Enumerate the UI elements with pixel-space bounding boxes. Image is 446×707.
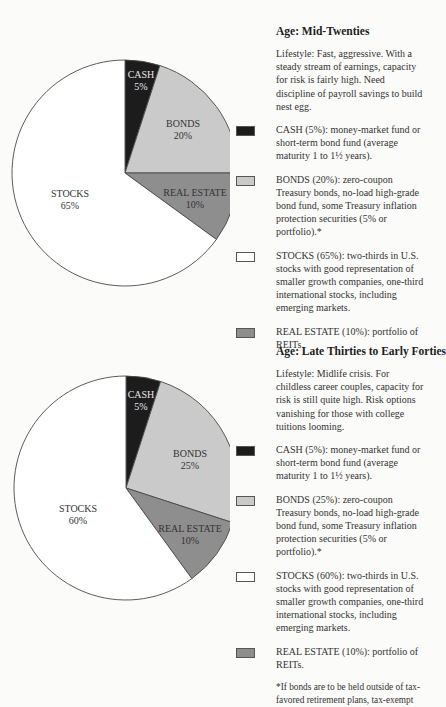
slice-label-real-estate: REAL ESTATE <box>158 523 222 534</box>
swatch-cash <box>236 126 255 136</box>
legend-text: CASH (5%): money-market fund or short-te… <box>276 443 426 483</box>
pie-svg: CASH5%BONDS20%REAL ESTATE10%STOCKS65% <box>0 0 230 310</box>
lifestyle-text: Lifestyle: Fast, aggressive. With a stea… <box>276 47 426 113</box>
pie-svg: CASH5%BONDS25%REAL ESTATE10%STOCKS60% <box>0 320 230 629</box>
swatch-real-estate <box>236 648 255 658</box>
legend-text: CASH (5%): money-market fund or short-te… <box>276 123 426 163</box>
section-late-thirties: Age: Late Thirties to Early Forties Life… <box>276 345 426 707</box>
pie-chart-late-thirties: CASH5%BONDS25%REAL ESTATE10%STOCKS60% <box>0 320 230 629</box>
legend-item-bonds: BONDS (25%): zero-coupon Treasury bonds,… <box>276 493 426 559</box>
swatch-real-estate <box>236 328 255 338</box>
legend-text: BONDS (20%): zero-coupon Treasury bonds,… <box>276 173 426 239</box>
slice-label-bonds: BONDS <box>166 118 200 129</box>
swatch-stocks <box>236 572 255 582</box>
slice-label-real-estate: 10% <box>186 199 204 210</box>
footnote: *If bonds are to be held outside of tax-… <box>276 681 426 707</box>
swatch-stocks <box>236 252 255 262</box>
pie-chart-mid-twenties: CASH5%BONDS20%REAL ESTATE10%STOCKS65% <box>0 0 230 310</box>
section-mid-twenties: Age: Mid-Twenties Lifestyle: Fast, aggre… <box>276 25 426 361</box>
legend-text: STOCKS (65%): two-thirds in U.S. stocks … <box>276 249 426 315</box>
section-title: Age: Mid-Twenties <box>276 25 426 37</box>
swatch-cash <box>236 446 255 456</box>
legend-text: BONDS (25%): zero-coupon Treasury bonds,… <box>276 493 426 559</box>
legend-text: REAL ESTATE (10%): portfolio of REITs. <box>276 645 426 671</box>
legend-item-stocks: STOCKS (60%): two-thirds in U.S. stocks … <box>276 569 426 635</box>
slice-label-cash: CASH <box>128 69 155 80</box>
slice-label-bonds: 20% <box>174 130 192 141</box>
legend-item-bonds: BONDS (20%): zero-coupon Treasury bonds,… <box>276 173 426 239</box>
slice-label-real-estate: 10% <box>181 535 199 546</box>
section-title: Age: Late Thirties to Early Forties <box>276 345 426 357</box>
legend-item-stocks: STOCKS (65%): two-thirds in U.S. stocks … <box>276 249 426 315</box>
legend-item-cash: CASH (5%): money-market fund or short-te… <box>276 123 426 163</box>
legend-text: STOCKS (60%): two-thirds in U.S. stocks … <box>276 569 426 635</box>
slice-label-cash: 5% <box>134 401 147 412</box>
slice-label-bonds: BONDS <box>173 448 207 459</box>
legend-item-cash: CASH (5%): money-market fund or short-te… <box>276 443 426 483</box>
swatch-bonds <box>236 176 255 186</box>
slice-label-bonds: 25% <box>181 460 199 471</box>
slice-label-stocks: STOCKS <box>59 503 97 514</box>
slice-label-stocks: 65% <box>61 200 79 211</box>
slice-label-real-estate: REAL ESTATE <box>163 187 227 198</box>
slice-label-stocks: STOCKS <box>51 188 89 199</box>
slice-label-cash: 5% <box>134 81 147 92</box>
legend-item-real-estate: REAL ESTATE (10%): portfolio of REITs. <box>276 645 426 671</box>
slice-label-cash: CASH <box>128 389 155 400</box>
slice-label-stocks: 60% <box>69 515 87 526</box>
lifestyle-text: Lifestyle: Midlife crisis. For childless… <box>276 367 426 433</box>
swatch-bonds <box>236 496 255 506</box>
